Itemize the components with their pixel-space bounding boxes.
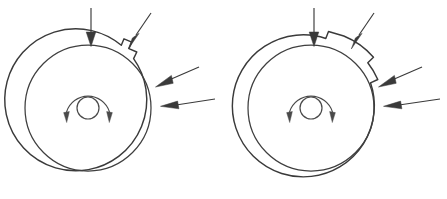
right-load-arrow-1-head — [309, 32, 319, 47]
right-load-arrow-3-shaft — [392, 67, 422, 80]
left-load-arrow-4-shaft — [176, 99, 215, 105]
right-rotation-arrowhead-cw — [330, 112, 336, 123]
left-hub-circle — [77, 97, 99, 119]
left-load-arrow-2-shaft — [136, 13, 151, 35]
left-load-arrow-3-head — [156, 75, 174, 87]
right-outer-rim-outline — [232, 32, 377, 177]
figure-container: Rotating disc with stepped notch under r… — [0, 0, 447, 199]
left-rotation-arrowhead-cw — [107, 112, 113, 123]
disc-notch-diagram: Rotating disc with stepped notch under r… — [0, 0, 447, 199]
right-load-arrow-4-head — [384, 101, 402, 109]
left-load-arrow-4-head — [161, 101, 179, 109]
right-load-arrow-3-head — [379, 75, 397, 87]
right-hub-circle — [300, 97, 322, 119]
panel-left — [5, 8, 215, 171]
left-rotation-arc — [67, 96, 110, 112]
panel-right — [232, 8, 440, 177]
left-load-arrow-1-head — [86, 32, 96, 47]
right-rotation-arc — [290, 96, 333, 112]
right-inner-bore — [248, 45, 374, 171]
right-load-arrow-4-shaft — [399, 99, 440, 105]
left-load-arrow-3-shaft — [169, 67, 199, 80]
left-rotation-arrowhead-ccw — [64, 112, 70, 123]
right-load-arrow-2-shaft — [359, 13, 374, 35]
left-inner-bore — [25, 45, 151, 171]
right-rotation-arrowhead-ccw — [287, 112, 293, 123]
